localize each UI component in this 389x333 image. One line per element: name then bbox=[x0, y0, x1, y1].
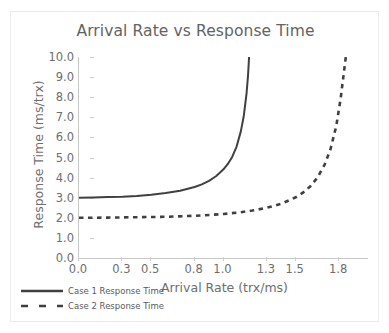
x-tick-label: 1.0 bbox=[203, 263, 243, 276]
y-tick-label: 5.0 bbox=[34, 152, 74, 164]
x-tick-mark bbox=[150, 257, 151, 261]
x-tick-mark bbox=[266, 257, 267, 261]
y-axis-ticks: 0.01.02.03.04.05.06.07.08.09.010.0 bbox=[27, 57, 74, 258]
series-line-1 bbox=[79, 57, 250, 198]
chart-legend: Case 1 Response Time Case 2 Response Tim… bbox=[19, 283, 179, 313]
x-tick-mark bbox=[295, 257, 296, 261]
series-canvas bbox=[79, 57, 368, 258]
x-tick-label: 1.8 bbox=[318, 263, 358, 276]
legend-label-case-1: Case 1 Response Time bbox=[68, 286, 164, 296]
y-tick-label: 1.0 bbox=[34, 232, 74, 244]
y-tick-label: 2.0 bbox=[34, 212, 74, 224]
x-tick-label: 1.5 bbox=[275, 263, 315, 276]
x-tick-label: 0.0 bbox=[58, 263, 98, 276]
y-tick-label: 3.0 bbox=[34, 192, 74, 204]
y-tick-label: 7.0 bbox=[34, 111, 74, 123]
y-tick-label: 9.0 bbox=[34, 71, 74, 83]
y-tick-label: 4.0 bbox=[34, 172, 74, 184]
x-tick-mark bbox=[194, 257, 195, 261]
x-tick-mark bbox=[338, 257, 339, 261]
y-tick-label: 8.0 bbox=[34, 91, 74, 103]
legend-item-case-1: Case 1 Response Time bbox=[19, 283, 179, 298]
legend-label-case-2: Case 2 Response Time bbox=[68, 301, 164, 311]
series-line-2 bbox=[79, 57, 348, 218]
x-axis-ticks: 0.00.30.50.81.01.31.51.8 bbox=[78, 261, 367, 277]
y-tick-label: 10.0 bbox=[34, 51, 74, 63]
x-tick-mark bbox=[223, 257, 224, 261]
legend-swatch-dashed-icon bbox=[19, 301, 65, 311]
y-tick-label: 6.0 bbox=[34, 131, 74, 143]
x-tick-label: 0.5 bbox=[130, 263, 170, 276]
legend-item-case-2: Case 2 Response Time bbox=[19, 298, 179, 313]
plot-area bbox=[78, 57, 368, 259]
chart-container: Arrival Rate vs Response Time Response T… bbox=[10, 11, 379, 322]
x-axis-title: Arrival Rate (trx/ms) bbox=[161, 280, 381, 295]
legend-swatch-solid-icon bbox=[19, 286, 65, 296]
x-tick-mark bbox=[121, 257, 122, 261]
x-tick-mark bbox=[78, 257, 79, 261]
chart-title: Arrival Rate vs Response Time bbox=[11, 22, 380, 40]
